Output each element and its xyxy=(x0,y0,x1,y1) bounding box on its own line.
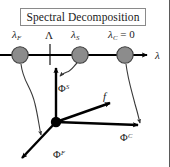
phi-C-vector-line xyxy=(56,122,138,125)
eigenvalue-label-lambda-C: λC = 0 xyxy=(108,29,135,41)
map-S-arrow xyxy=(60,63,77,76)
eigenvalue-node-lambda-S xyxy=(72,47,88,63)
f-vector-label: f xyxy=(103,91,106,102)
eigenvalue-node-lambda-C xyxy=(117,47,133,63)
lambda-axis-label: λ xyxy=(155,50,160,61)
eigenvalue-node-lambda-F xyxy=(12,47,28,63)
eigenvalue-label-lambda-S: λS xyxy=(71,29,79,41)
eigenvalue-label-lambda-F: λF xyxy=(12,29,21,41)
map-F-arrow xyxy=(21,64,41,135)
spectral-decomposition-figure: Spectral Decomposition λF Λ λS λC = 0 λ … xyxy=(0,0,170,167)
map-C-arrow xyxy=(126,64,140,123)
phi-F-vector-label: ΦF xyxy=(53,150,65,161)
figure-title-box: Spectral Decomposition xyxy=(20,8,146,26)
capital-lambda-label: Λ xyxy=(45,30,53,41)
vector-origin-dot xyxy=(51,117,61,127)
f-vector-line xyxy=(56,103,110,122)
page-title: Spectral Decomposition xyxy=(26,11,139,23)
phi-S-vector-label: ΦS xyxy=(58,84,69,95)
phi-C-vector-label: ΦC xyxy=(120,133,132,144)
